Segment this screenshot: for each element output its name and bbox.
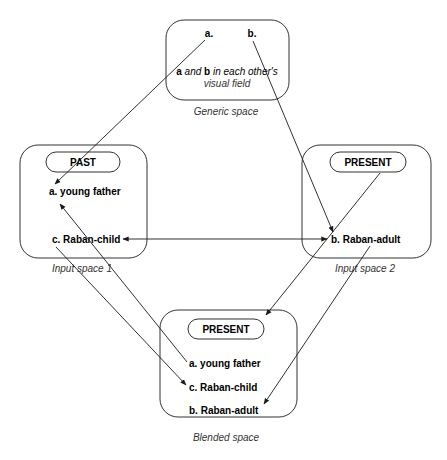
input-space-2-label: Input space 2 (335, 263, 395, 274)
generic-relation-line2: visual field (204, 78, 251, 89)
blend-element-c: c. Raban-child (189, 382, 257, 393)
arrow-generic-a-to-input1-a (55, 40, 205, 184)
input1-element-c: c. Raban-child (52, 234, 120, 245)
input-space-1: PAST a. young father c. Raban-child Inpu… (20, 145, 147, 274)
blended-space-label: Blended space (193, 432, 260, 443)
input2-frame-label: PRESENT (344, 157, 391, 168)
blending-diagram: a. b. a and b in each other's visual fie… (0, 0, 447, 460)
mapping-arrows (55, 40, 380, 404)
generic-space-label: Generic space (194, 106, 259, 117)
generic-element-a: a. (205, 28, 214, 39)
input-space-2: PRESENT b. Raban-adult Input space 2 (302, 145, 431, 274)
input1-element-a: a. young father (49, 186, 121, 197)
arrow-input2-b-to-blend-b (264, 246, 370, 404)
blend-element-a: a. young father (189, 358, 261, 369)
input-space-1-label: Input space 1 (52, 263, 112, 274)
input2-element-b: b. Raban-adult (331, 234, 401, 245)
blend-element-b: b. Raban-adult (189, 405, 259, 416)
blended-space: PRESENT a. young father c. Raban-child b… (160, 310, 297, 443)
arrow-generic-b-to-input2-b (253, 41, 333, 232)
arrow-input1-c-to-blend-c (56, 247, 186, 385)
generic-space: a. b. a and b in each other's visual fie… (166, 20, 289, 117)
generic-relation-line1: a and b in each other's (176, 66, 277, 77)
generic-element-b: b. (248, 28, 257, 39)
arrow-blend-a-to-input1-a (60, 204, 187, 362)
blend-frame-label: PRESENT (202, 324, 249, 335)
